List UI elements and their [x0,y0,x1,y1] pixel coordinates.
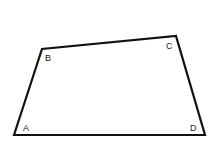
vertex-label-d: D [190,123,197,133]
vertex-label-b: B [45,53,51,63]
quadrilateral-diagram: A B C D [0,0,215,144]
vertex-label-a: A [23,123,29,133]
quadrilateral-abcd [14,36,205,135]
vertex-label-c: C [166,41,173,51]
